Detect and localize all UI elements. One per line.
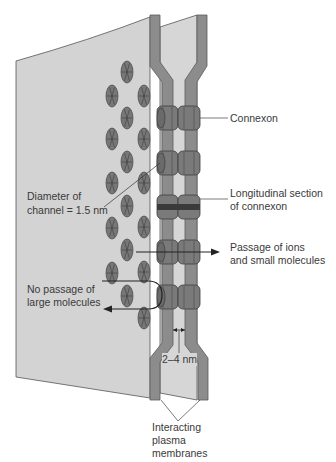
membranes-label-line1: Interacting [152, 421, 201, 434]
connexon-face-disc [106, 128, 118, 150]
connexon-face-disc [106, 217, 118, 239]
connexon-face-disc [121, 61, 133, 83]
connexon-face-disc [138, 261, 150, 283]
connexon-face-disc [121, 151, 133, 173]
connexon-face-disc [121, 239, 133, 261]
no-passage-label-line2: large molecules [27, 296, 101, 309]
membranes-label-line2: plasma [152, 434, 186, 447]
connexon-face-disc [121, 285, 133, 307]
gap-junction-diagram [0, 0, 336, 462]
connexon-face-disc [138, 85, 150, 107]
longitudinal-section-label-line1: Longitudinal section [230, 187, 323, 200]
connexon-label: Connexon [230, 112, 278, 125]
connexon-face-disc [138, 128, 150, 150]
membranes-pointer [161, 400, 200, 421]
connexon-3 [157, 195, 200, 219]
connexon-face-disc [121, 195, 133, 217]
connexon-face-disc [138, 307, 150, 329]
diameter-label-line2: channel = 1.5 nm [27, 204, 108, 217]
diameter-label-line1: Diameter of [27, 190, 81, 203]
connexon-1 [157, 106, 200, 130]
longitudinal-section-label-line2: of connexon [230, 200, 287, 213]
passage-label-line1: Passage of ions [230, 241, 305, 254]
gap-width-label: 2–4 nm [162, 353, 197, 366]
connexon-face-disc [106, 85, 118, 107]
connexon-face-disc [121, 107, 133, 129]
no-passage-label-line1: No passage of [27, 283, 95, 296]
connexon-face-disc [106, 172, 118, 194]
connexon-5 [157, 285, 200, 309]
connexon-face-disc [138, 216, 150, 238]
membranes-label-line3: membranes [152, 447, 207, 460]
passage-label-line2: and small molecules [230, 254, 325, 267]
connexon-2 [157, 151, 200, 175]
